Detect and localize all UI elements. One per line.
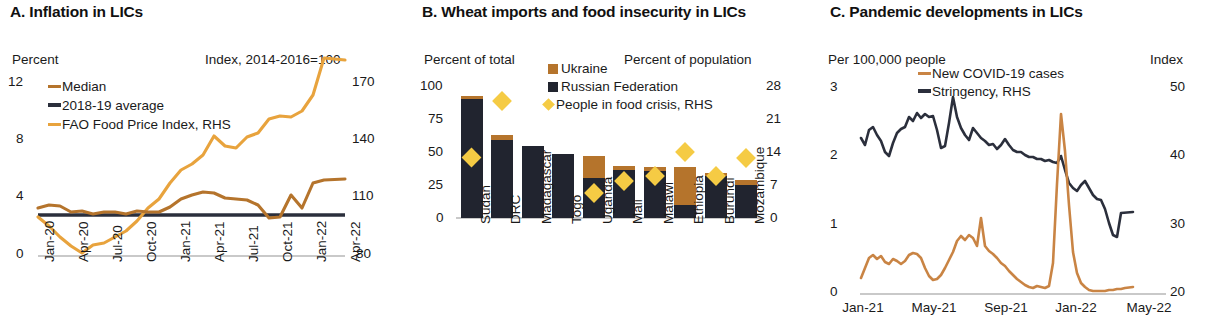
marker-drc-food-crisis	[492, 91, 512, 111]
panel-a-xtick-6: Jul-21	[246, 225, 261, 262]
panel-b-xtick-6: Malawi	[661, 182, 676, 224]
panel-c-pandemic: C. Pandemic developments in LICs Per 100…	[818, 0, 1205, 328]
bar-uganda-ukraine	[583, 156, 605, 178]
bar-sudan-ukraine	[461, 96, 483, 99]
panel-a-plot	[0, 0, 410, 328]
bar-drc-ukraine	[491, 135, 513, 140]
panel-a-xtick-0: Jan-20	[42, 221, 57, 262]
panel-a-xtick-8: Jan-22	[314, 221, 329, 262]
panel-b-xtick-4: Uganda	[600, 177, 615, 224]
panel-b-xtick-3: Togo	[569, 195, 584, 224]
panel-c-xtick-2: Sep-21	[973, 300, 1039, 315]
panel-b-xtick-8: Burundi	[722, 177, 737, 224]
panel-c-plot	[818, 0, 1205, 328]
panel-a-xtick-1: Apr-20	[76, 221, 91, 262]
series-new-covid-cases	[861, 114, 1133, 291]
panel-b-xtick-7: Ethiopia	[691, 175, 706, 224]
panel-b-xtick-2: Madagascar	[539, 150, 554, 224]
panel-c-xtick-3: Jan-22	[1044, 300, 1108, 315]
panel-b-xtick-5: Mali	[630, 199, 645, 224]
panel-a-inflation: A. Inflation in LICs Percent Index, 2014…	[0, 0, 410, 328]
panel-b-wheat-imports: B. Wheat imports and food insecurity in …	[412, 0, 815, 328]
panel-c-xtick-4: May-22	[1113, 300, 1185, 315]
figure-container: A. Inflation in LICs Percent Index, 2014…	[0, 0, 1205, 328]
panel-c-xtick-1: May-21	[898, 300, 970, 315]
series-stringency	[861, 97, 1133, 237]
series-median	[38, 179, 345, 218]
panel-b-xtick-0: Sudan	[478, 185, 493, 224]
panel-b-xtick-1: DRC	[508, 195, 523, 224]
panel-a-xtick-5: Apr-21	[212, 221, 227, 262]
panel-a-xtick-9: Apr-22	[348, 221, 363, 262]
panel-a-xtick-2: Jul-20	[110, 225, 125, 262]
panel-b-xtick-9: Mozambique	[752, 147, 767, 224]
panel-a-xtick-4: Jan-21	[178, 221, 193, 262]
panel-a-xtick-3: Oct-20	[144, 221, 159, 262]
panel-c-xtick-0: Jan-21	[832, 300, 894, 315]
panel-a-xtick-7: Oct-21	[280, 221, 295, 262]
marker-ethiopia-food-crisis	[675, 142, 695, 162]
bar-mali-ukraine	[613, 166, 635, 170]
